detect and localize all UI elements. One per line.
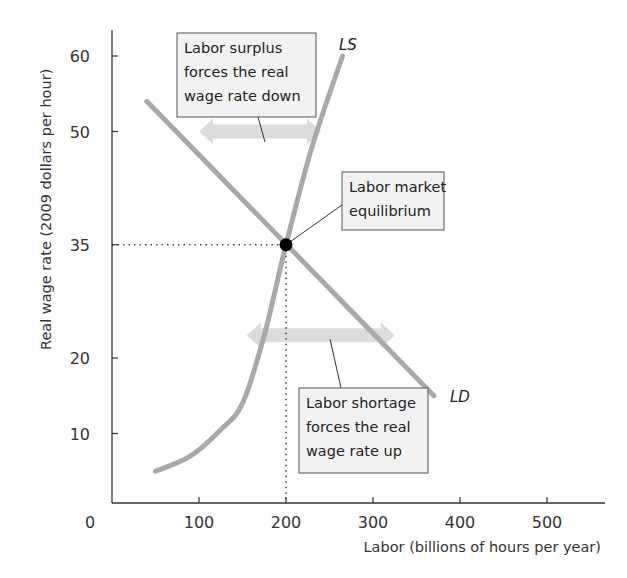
y-tick-label: 60 — [70, 47, 90, 66]
y-tick-label: 35 — [70, 236, 90, 255]
labor-market-chart: 01002003004005001020355060 Labor surplus… — [0, 0, 627, 578]
arrows-layer — [199, 119, 395, 349]
y-tick-label: 50 — [70, 123, 90, 142]
shortage-annotation-text: Labor shortage — [306, 395, 416, 411]
shortage-leader-line — [330, 339, 341, 388]
surplus-annotation-text: forces the real — [184, 64, 289, 80]
y-tick-label: 20 — [70, 349, 90, 368]
x-axis-title: Labor (billions of hours per year) — [364, 539, 601, 555]
guides-layer — [112, 245, 286, 503]
equilibrium-annotation-text: Labor market — [349, 179, 446, 195]
shortage-annotation-text: forces the real — [306, 419, 411, 435]
surplus-annotation-text: Labor surplus — [184, 40, 282, 56]
y-axis-title: Real wage rate (2009 dollars per hour) — [38, 69, 54, 350]
ls-curve-label: LS — [339, 36, 357, 54]
x-tick-label: 400 — [445, 513, 476, 532]
x-tick-label: 300 — [358, 513, 389, 532]
x-tick-label: 500 — [532, 513, 563, 532]
surplus-annotation-text: wage rate down — [184, 88, 301, 104]
y-tick-label: 10 — [70, 425, 90, 444]
x-tick-label: 100 — [184, 513, 215, 532]
equilibrium-annotation-text: equilibrium — [349, 203, 431, 219]
x-tick-label: 200 — [271, 513, 302, 532]
boxes-layer: Labor surplusforces the realwage rate do… — [177, 33, 446, 473]
x-tick-label: 0 — [85, 513, 95, 532]
shortage-annotation-text: wage rate up — [306, 443, 402, 459]
equilibrium-point — [280, 238, 293, 251]
ld-curve-label: LD — [450, 388, 470, 406]
